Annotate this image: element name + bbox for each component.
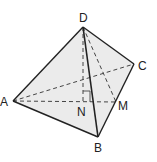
vertex-label-A: A [0, 95, 8, 109]
tetrahedron-diagram: D A B C N M [0, 0, 157, 162]
point-label-M: M [118, 99, 128, 113]
vertex-label-D: D [79, 11, 88, 25]
vertex-label-B: B [94, 141, 102, 155]
point-label-N: N [77, 105, 86, 119]
vertex-label-C: C [138, 59, 147, 73]
